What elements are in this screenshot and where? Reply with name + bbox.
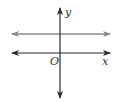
origin-label: O: [50, 55, 59, 68]
y-axis-label: y: [64, 6, 72, 19]
coordinate-plane: y O x: [0, 0, 121, 102]
x-axis-label: x: [102, 55, 109, 68]
